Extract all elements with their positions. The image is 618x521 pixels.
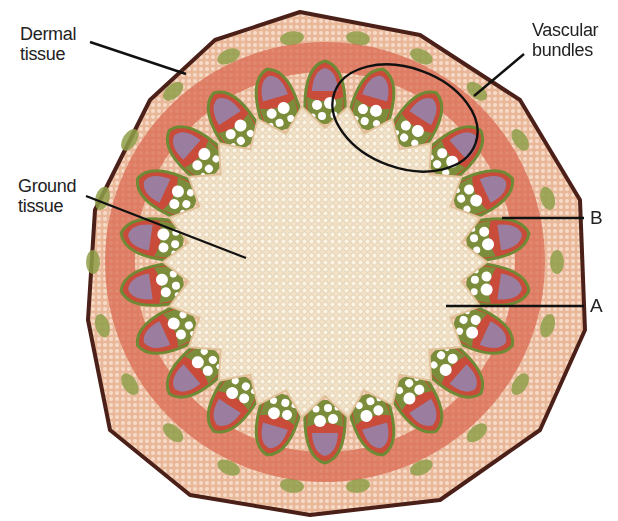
vascular-bundles-label: Vascular bundles <box>532 20 598 60</box>
label-a: A <box>590 296 602 316</box>
label-line: bundles <box>532 40 598 60</box>
ground-tissue-label: Ground tissue <box>18 176 76 216</box>
label-line: Ground <box>18 176 76 196</box>
dermal-tissue-label: Dermal tissue <box>20 24 76 64</box>
dermal-leader-line <box>90 42 186 74</box>
label-line: tissue <box>20 44 76 64</box>
label-line: Dermal <box>20 24 76 44</box>
label-line: Vascular <box>532 20 598 40</box>
stem-illustration <box>0 0 618 521</box>
label-line: tissue <box>18 196 76 216</box>
stem-cross-section-diagram: Dermal tissue Vascular bundles Ground ti… <box>0 0 618 521</box>
label-b: B <box>590 208 602 228</box>
